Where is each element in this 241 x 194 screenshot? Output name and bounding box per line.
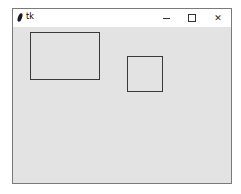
minimize-button[interactable] [153, 9, 179, 27]
tk-feather-icon [17, 13, 24, 23]
rectangle-square [127, 56, 163, 92]
tk-window: tk ✕ [12, 8, 232, 184]
canvas[interactable] [13, 27, 231, 183]
maximize-button[interactable] [179, 9, 205, 27]
title-bar[interactable]: tk ✕ [13, 9, 231, 27]
close-button[interactable]: ✕ [205, 9, 231, 27]
window-title: tk [26, 12, 34, 21]
minimize-icon [163, 18, 170, 19]
close-icon: ✕ [214, 13, 222, 23]
maximize-icon [188, 14, 196, 22]
rectangle-large [30, 32, 100, 80]
